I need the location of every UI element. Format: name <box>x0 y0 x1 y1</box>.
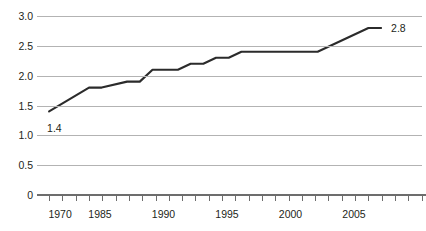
y-axis-tick-label: 3.0 <box>3 11 33 22</box>
x-axis-tick <box>156 196 157 201</box>
x-axis-tick <box>116 196 117 201</box>
x-axis-tick <box>182 196 183 201</box>
x-axis-tick <box>62 196 63 201</box>
x-axis-tick <box>249 196 250 201</box>
x-axis-tick <box>315 196 316 201</box>
x-axis-tick <box>209 196 210 201</box>
x-axis-tick <box>382 196 383 201</box>
plot-area: 1970198519901995200020051.42.8 <box>37 0 426 231</box>
gridline <box>37 16 422 17</box>
y-axis-tick-label: 2.5 <box>3 41 33 52</box>
x-axis-tick <box>355 196 356 201</box>
x-axis-tick <box>49 196 50 201</box>
y-axis: 3.02.52.01.51.00.50 <box>0 0 33 231</box>
gridline <box>37 135 422 136</box>
x-axis-tick-label: 1995 <box>215 209 238 220</box>
y-axis-tick-label: 1.0 <box>3 130 33 141</box>
x-axis-tick <box>342 196 343 201</box>
gridline <box>37 46 422 47</box>
x-axis-tick <box>262 196 263 201</box>
x-axis-tick <box>89 196 90 201</box>
gridline <box>37 106 422 107</box>
x-axis-tick <box>408 196 409 201</box>
y-axis-tick-label: 0.5 <box>3 160 33 171</box>
x-axis-tick-label: 2000 <box>279 209 302 220</box>
x-axis-tick-label: 1990 <box>152 209 175 220</box>
x-axis-tick <box>142 196 143 201</box>
x-axis-tick <box>422 196 423 201</box>
x-axis-tick <box>129 196 130 201</box>
start-value-label: 1.4 <box>47 123 62 134</box>
x-axis-tick <box>302 196 303 201</box>
gridline <box>37 165 422 166</box>
x-axis-tick-label: 1970 <box>48 209 71 220</box>
end-value-label: 2.8 <box>391 23 406 34</box>
x-axis-tick <box>289 196 290 201</box>
x-axis-tick <box>395 196 396 201</box>
x-axis-tick <box>235 196 236 201</box>
y-axis-tick-label: 0 <box>3 190 33 201</box>
x-axis-tick <box>222 196 223 201</box>
line-chart: 3.02.52.01.51.00.50 19701985199019952000… <box>0 0 426 231</box>
x-axis-tick <box>328 196 329 201</box>
x-axis-tick <box>195 196 196 201</box>
x-axis-tick <box>169 196 170 201</box>
x-axis-tick-label: 2005 <box>342 209 365 220</box>
x-axis-tick <box>275 196 276 201</box>
y-axis-tick-label: 1.5 <box>3 100 33 111</box>
x-axis-tick-label: 1985 <box>88 209 111 220</box>
x-axis-tick <box>368 196 369 201</box>
y-axis-tick-label: 2.0 <box>3 70 33 81</box>
x-axis-tick <box>76 196 77 201</box>
x-axis-tick <box>102 196 103 201</box>
series-polyline <box>49 28 381 112</box>
gridline <box>37 76 422 77</box>
